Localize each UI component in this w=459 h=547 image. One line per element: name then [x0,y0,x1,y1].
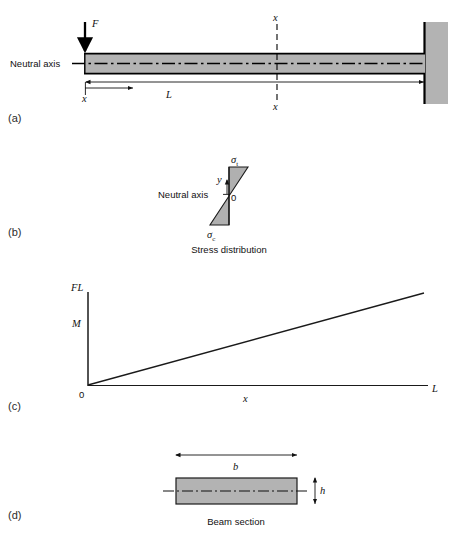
moment-axis-label: M [71,318,82,329]
section-label-bottom: x [272,101,278,112]
panel-b-stress-distribution: σt σc y 0 Neutral axis Stress distributi… [8,154,267,255]
height-dimension-label: h [320,485,325,496]
panel-label-b: (b) [8,226,21,238]
compression-stress-triangle [210,196,229,225]
section-label-top: x [272,12,278,23]
stress-distribution-caption: Stress distribution [191,244,267,255]
panel-label-c: (c) [8,400,21,412]
moment-axis-top-label: FL [70,282,83,293]
moment-x-end-label: L [431,383,438,394]
x-dimension-label: x [81,93,87,104]
width-dimension-label: b [233,461,238,472]
moment-line [88,293,424,385]
y-distance-label: y [216,174,222,185]
figure-container: Neutral axis F x x x L (a) [0,0,459,547]
stress-neutral-axis-label: Neutral axis [158,189,208,200]
figure-svg: Neutral axis F x x x L (a) [0,0,459,547]
panel-c-moment-diagram: FL M 0 x L (c) [8,282,438,412]
panel-label-d: (d) [8,509,21,521]
length-dimension-label: L [165,89,172,100]
neutral-axis-label: Neutral axis [10,58,60,69]
panel-a-cantilever-beam: Neutral axis F x x x L (a) [8,12,448,124]
force-label: F [91,18,99,29]
moment-x-axis-label: x [242,393,248,404]
wall-support-block [424,22,448,104]
compression-stress-label: σc [207,229,215,243]
moment-origin-label: 0 [79,389,84,400]
panel-label-a: (a) [8,112,21,124]
tension-stress-label: σt [231,154,238,168]
stress-origin-label: 0 [231,192,236,203]
panel-d-beam-section: b h Beam section (d) [8,455,325,527]
beam-section-caption: Beam section [207,516,265,527]
